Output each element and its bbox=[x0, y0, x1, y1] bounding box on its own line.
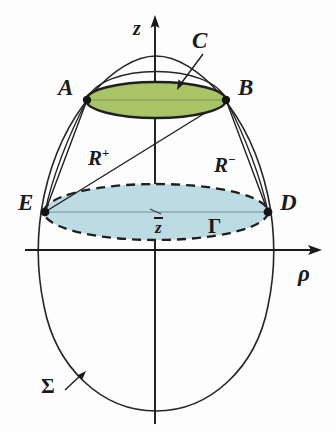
point-E-dot bbox=[41, 208, 50, 217]
R-plus-base: R bbox=[88, 146, 102, 170]
diagram-svg bbox=[0, 0, 336, 433]
R-plus-label: R+ bbox=[88, 146, 109, 169]
c-leader-line bbox=[180, 54, 203, 85]
point-A-dot bbox=[83, 96, 91, 104]
point-A-label: A bbox=[58, 76, 73, 99]
z-bar-glyph: z bbox=[155, 219, 162, 236]
point-B-dot bbox=[222, 96, 230, 104]
R-minus-base: R bbox=[214, 153, 228, 177]
circle-C-label: C bbox=[192, 29, 207, 52]
rho-axis-label: ρ bbox=[298, 262, 310, 285]
R-plus-superscript: + bbox=[102, 145, 109, 160]
point-B-label: B bbox=[238, 76, 253, 99]
sigma-leader-arrowhead bbox=[77, 371, 86, 380]
point-D-dot bbox=[264, 208, 273, 217]
R-minus-superscript: − bbox=[228, 152, 235, 167]
surface-Sigma-label: Σ bbox=[41, 376, 55, 397]
sigma-leader-line bbox=[65, 375, 81, 390]
point-E-label: E bbox=[18, 191, 33, 214]
z-bar-label: z bbox=[155, 219, 162, 236]
point-D-label: D bbox=[280, 191, 297, 214]
circle-Gamma-label: Γ bbox=[208, 216, 221, 237]
diagram-canvas: z ρ A B C E D R+ R− z Γ Σ bbox=[0, 0, 336, 433]
R-minus-label: R− bbox=[214, 153, 235, 176]
z-axis-label: z bbox=[133, 18, 141, 38]
